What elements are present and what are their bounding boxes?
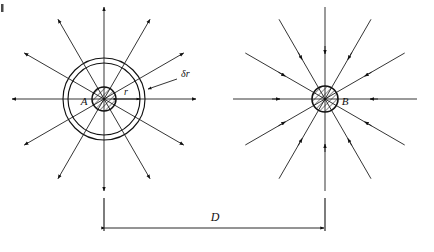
arrowhead-b-240 <box>298 139 302 146</box>
arrowhead-b-210 <box>279 122 286 126</box>
diagram-canvas: r δr A <box>0 0 434 252</box>
sphere-b-group: B <box>233 7 417 191</box>
arrowhead-b-60 <box>348 53 352 60</box>
arrowhead-b-150 <box>279 72 286 76</box>
arrowhead-b-300 <box>348 139 352 146</box>
sphere-b-core <box>312 86 338 112</box>
shell-thickness-label: δr <box>181 68 190 79</box>
radius-label: r <box>124 86 128 97</box>
physics-field-diagram: r δr A <box>0 0 434 252</box>
arrowhead-b-330 <box>365 122 372 126</box>
edge-artifact-mark <box>1 4 4 12</box>
arrowhead-b-120 <box>298 53 302 60</box>
sphere-a-group: r δr A <box>12 7 196 191</box>
shell-thickness-callout <box>148 79 177 89</box>
sphere-a-label: A <box>80 95 88 107</box>
sphere-a-core <box>92 87 116 111</box>
shell-thickness-leader <box>148 79 177 89</box>
sphere-b-label: B <box>342 95 349 107</box>
arrowhead-b-30 <box>365 72 372 76</box>
separation-label: D <box>210 210 220 224</box>
